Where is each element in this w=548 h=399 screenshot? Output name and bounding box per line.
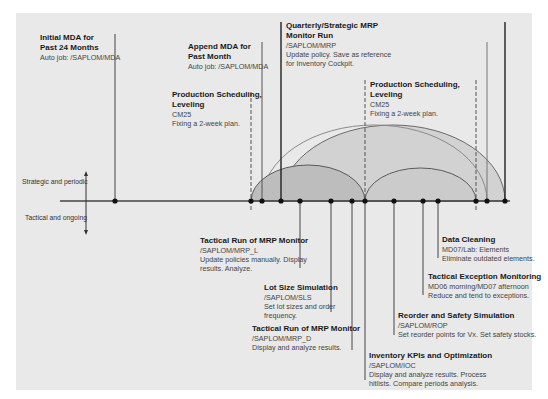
event-desc: for Inventory Cockpit. xyxy=(286,59,391,68)
event-exception-monitoring: Tactical Exception Monitoring MD06 morni… xyxy=(428,272,541,300)
event-title: Tactical Exception Monitoring xyxy=(428,272,541,282)
event-title: Leveling xyxy=(370,90,460,100)
event-tactical-mrp-d: Tactical Run of MRP Monitor /SAPLOM/MRP_… xyxy=(252,324,360,352)
event-title: Leveling xyxy=(172,100,262,110)
event-desc: Display and analyze results. Process xyxy=(369,370,492,379)
event-title: Tactical Run of MRP Monitor xyxy=(200,236,308,246)
event-title: Data Cleaning xyxy=(442,235,535,245)
event-code: /SAPLOM/MRP_L xyxy=(200,246,308,255)
event-desc: Eliminate outdated elements. xyxy=(442,254,535,263)
event-code: /SAPLOM/ROP xyxy=(398,321,536,330)
arrow-up-icon xyxy=(84,171,88,176)
event-title: Lot Size Simulation xyxy=(264,283,338,293)
event-desc: Fixing a 2-week plan. xyxy=(172,119,262,128)
event-production-scheduling-1: Production Scheduling, Leveling CM25 Fix… xyxy=(172,90,262,128)
event-desc: hitlists. Compare periods analysis. xyxy=(369,379,492,388)
event-desc: Reduce and tend to exceptions. xyxy=(428,291,541,300)
event-title: Initial MDA for xyxy=(40,33,120,43)
event-inventory-kpis: Inventory KPIs and Optimization /SAPLOM/… xyxy=(369,351,492,388)
event-reorder-safety: Reorder and Safety Simulation /SAPLOM/RO… xyxy=(398,311,536,339)
event-title: Tactical Run of MRP Monitor xyxy=(252,324,360,334)
event-desc: Set reorder points for Vx. Set safety st… xyxy=(398,330,536,339)
event-production-scheduling-2: Production Scheduling, Leveling CM25 Fix… xyxy=(370,80,460,118)
event-data-cleaning: Data Cleaning MD07/Lab: Elements Elimina… xyxy=(442,235,535,263)
event-title: Quarterly/Strategic MRP xyxy=(286,21,391,31)
event-lot-size-simulation: Lot Size Simulation /SAPLOM/SLS Set lot … xyxy=(264,283,338,320)
event-desc: Update policy. Save as reference xyxy=(286,50,391,59)
event-code: Auto job: /SAPLOM/MDA xyxy=(188,62,268,71)
event-title: Monitor Run xyxy=(286,31,391,41)
event-desc: Set lot sizes and order xyxy=(264,302,338,311)
event-desc: Display and analyze results. xyxy=(252,343,360,352)
event-title: Past 24 Months xyxy=(40,43,120,53)
event-tactical-mrp-l: Tactical Run of MRP Monitor /SAPLOM/MRP_… xyxy=(200,236,308,273)
event-code: MD06 morning/MD07 afternoon xyxy=(428,282,541,291)
event-title: Append MDA for xyxy=(188,42,268,52)
event-desc: Fixing a 2-week plan. xyxy=(370,109,460,118)
event-title: Reorder and Safety Simulation xyxy=(398,311,536,321)
event-title: Production Scheduling, xyxy=(370,80,460,90)
event-code: /SAPLOM/MRP xyxy=(286,41,391,50)
event-title: Past Month xyxy=(188,52,268,62)
event-code: /SAPLOM/MRP_D xyxy=(252,334,360,343)
event-desc: results. Analyze. xyxy=(200,264,308,273)
event-quarterly-mrp: Quarterly/Strategic MRP Monitor Run /SAP… xyxy=(286,21,391,68)
event-code: MD07/Lab: Elements xyxy=(442,245,535,254)
event-code: CM25 xyxy=(172,110,262,119)
event-code: /SAPLOM/IOC xyxy=(369,361,492,370)
event-code: Auto job: /SAPLOM/MDA xyxy=(40,53,120,62)
event-code: CM25 xyxy=(370,100,460,109)
event-desc: frequency. xyxy=(264,311,338,320)
arrow-down-icon xyxy=(84,230,88,235)
axis-label-tactical: Tactical and ongoing xyxy=(25,214,87,221)
event-initial-mda: Initial MDA for Past 24 Months Auto job:… xyxy=(40,33,120,62)
event-desc: Update policies manually. Display xyxy=(200,255,308,264)
axis-label-strategic: Strategic and periodic xyxy=(22,178,88,185)
event-title: Production Scheduling, xyxy=(172,90,262,100)
event-code: /SAPLOM/SLS xyxy=(264,293,338,302)
event-title: Inventory KPIs and Optimization xyxy=(369,351,492,361)
event-append-mda: Append MDA for Past Month Auto job: /SAP… xyxy=(188,42,268,71)
